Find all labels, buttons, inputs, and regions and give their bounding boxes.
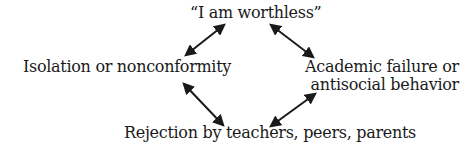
arrow-top-left-icon (186, 25, 224, 55)
arrow-top-right-icon (271, 25, 313, 57)
arrow-right-bottom-icon (271, 94, 315, 126)
arrows-layer (0, 0, 463, 153)
arrow-left-bottom-icon (184, 84, 223, 125)
